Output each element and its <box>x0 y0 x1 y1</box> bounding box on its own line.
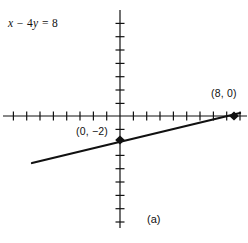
equation-minus-operator: − <box>14 17 27 29</box>
panel-label: (a) <box>147 214 160 225</box>
equation-constant: 8 <box>52 17 58 29</box>
equation-equals-operator: = <box>39 17 52 29</box>
point-label-8-0: (8, 0) <box>211 88 237 99</box>
plotted-line <box>32 113 240 163</box>
graph-figure: x − 4y = 8 (8, 0) (0, −2) (a) <box>0 0 248 243</box>
point-label-0-neg2: (0, −2) <box>76 126 108 137</box>
coordinate-plane <box>0 0 248 243</box>
equation-label: x − 4y = 8 <box>8 18 58 30</box>
